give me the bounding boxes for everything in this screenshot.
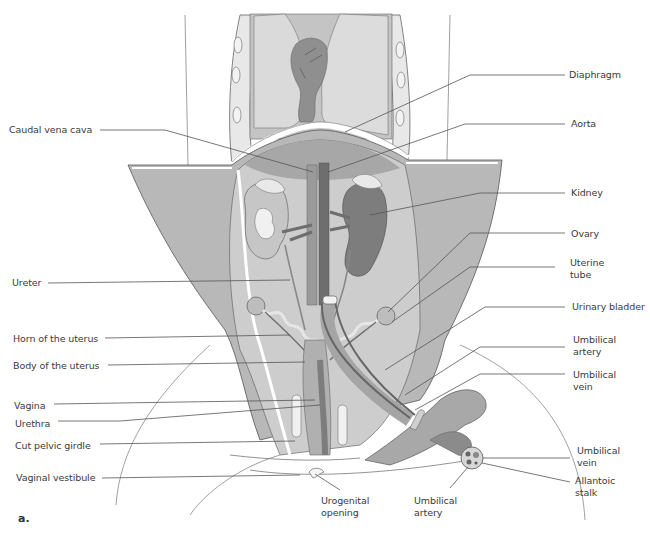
label-vaginal-vestibule: Vaginal vestibule (16, 472, 95, 484)
anatomy-illustration (0, 0, 650, 535)
label-caudal-vena-cava: Caudal vena cava (9, 124, 92, 136)
right-ovary (377, 307, 395, 325)
umbilical-cord-cross-section (461, 447, 483, 469)
caudal-vena-cava (307, 165, 317, 305)
label-urethra: Urethra (15, 418, 50, 430)
label-horn-of-uterus: Horn of the uterus (13, 333, 98, 345)
pelvic-girdle-left (292, 395, 301, 437)
urogenital-opening (309, 468, 324, 478)
label-cut-pelvic-girdle: Cut pelvic girdle (15, 440, 91, 452)
label-kidney: Kidney (571, 187, 603, 199)
label-ureter: Ureter (12, 277, 41, 289)
anatomy-figure: Caudal vena cava Ureter Horn of the uter… (0, 0, 650, 535)
left-ovary (247, 297, 265, 315)
label-umbilical-artery: Umbilical artery (573, 334, 623, 358)
pelvic-girdle-right (338, 405, 347, 445)
label-body-of-uterus: Body of the uterus (13, 360, 99, 372)
label-aorta: Aorta (571, 118, 596, 130)
label-urogenital-opening: Urogenital opening (321, 495, 381, 519)
label-umbilical-vein-2: Umbilical vein (577, 445, 627, 469)
label-ovary: Ovary (571, 228, 599, 240)
label-vagina: Vagina (14, 400, 46, 412)
label-umbilical-artery-2: Umbilical artery (414, 495, 464, 519)
label-allantoic-stalk: Allantoic stalk (575, 475, 625, 499)
panel-label: a. (18, 512, 30, 525)
label-umbilical-vein: Umbilical vein (573, 369, 623, 393)
label-diaphragm: Diaphragm (569, 69, 621, 81)
label-uterine-tube: Uterine tube (570, 257, 610, 281)
aorta (319, 163, 329, 305)
label-urinary-bladder: Urinary bladder (572, 301, 645, 313)
